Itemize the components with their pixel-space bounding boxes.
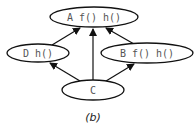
node-b: B f() h() [101, 43, 193, 63]
node-c-label: C [90, 85, 96, 96]
node-a: A f() h() [50, 7, 138, 27]
node-a-label: A f() h() [67, 12, 121, 23]
edge-c-to-b [106, 64, 134, 81]
edge-b-to-a [106, 28, 134, 44]
inheritance-diagram: A f() h() D h() B f() h() C (b) [0, 0, 196, 129]
node-d-label: D h() [23, 48, 53, 59]
node-b-label: B f() h() [120, 48, 174, 59]
node-d: D h() [7, 44, 69, 62]
edge-c-to-d [50, 63, 80, 81]
edge-d-to-a [52, 28, 80, 45]
node-c: C [62, 80, 124, 100]
figure-caption: (b) [85, 111, 101, 124]
